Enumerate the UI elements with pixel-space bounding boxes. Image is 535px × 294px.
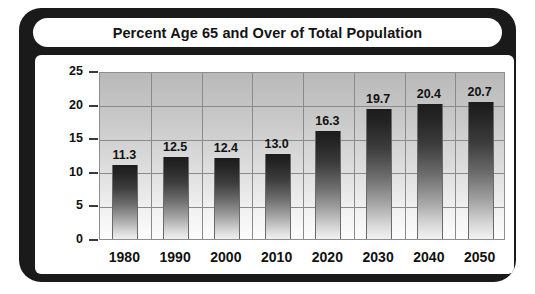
bar-value-label: 20.4: [405, 87, 453, 101]
gridline-horizontal: [100, 207, 504, 208]
y-axis-tick-label: 25: [55, 64, 83, 78]
y-axis-tick-mark: [89, 105, 98, 107]
bar-value-label: 20.7: [456, 85, 504, 99]
gridline-vertical: [151, 73, 152, 239]
y-axis-tick-label: 5: [55, 198, 83, 212]
bar: [163, 157, 189, 240]
chart-title-pill: Percent Age 65 and Over of Total Populat…: [33, 18, 502, 47]
gridline-vertical: [252, 73, 253, 239]
y-axis-tick-mark: [89, 71, 98, 73]
bar: [265, 154, 291, 240]
bar-value-label: 12.4: [202, 141, 250, 155]
bar-value-label: 16.3: [303, 114, 351, 128]
y-axis-tick-mark: [89, 172, 98, 174]
chart-panel: 051015202511.3198012.5199012.4200013.020…: [35, 55, 514, 274]
bar-value-label: 11.3: [100, 148, 148, 162]
bar-chart: 051015202511.3198012.5199012.4200013.020…: [35, 55, 514, 274]
gridline-horizontal: [100, 173, 504, 174]
y-axis-tick-mark: [89, 138, 98, 140]
bar: [366, 109, 392, 240]
gridline-vertical: [303, 73, 304, 239]
gridline-vertical: [202, 73, 203, 239]
y-axis-tick-label: 20: [55, 98, 83, 112]
bar-value-label: 19.7: [354, 92, 402, 106]
x-axis-tick-label: 2050: [450, 249, 510, 265]
chart-frame: Percent Age 65 and Over of Total Populat…: [19, 8, 516, 282]
bar: [417, 104, 443, 240]
page-title: Percent Age 65 and Over of Total Populat…: [113, 25, 423, 41]
bar: [468, 102, 494, 240]
y-axis-tick-mark: [89, 239, 98, 241]
y-axis-tick-label: 15: [55, 131, 83, 145]
y-axis-tick-mark: [89, 205, 98, 207]
bar-value-label: 12.5: [151, 140, 199, 154]
bar: [112, 165, 138, 240]
bar: [315, 131, 341, 240]
y-axis-tick-label: 0: [55, 232, 83, 246]
bar-value-label: 13.0: [253, 137, 301, 151]
gridline-horizontal: [100, 106, 504, 107]
bar: [214, 158, 240, 240]
y-axis-tick-label: 10: [55, 165, 83, 179]
